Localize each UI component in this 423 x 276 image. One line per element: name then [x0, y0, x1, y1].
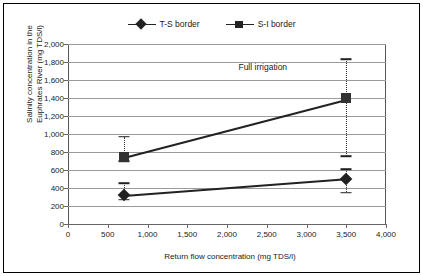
y-tick-mark	[64, 152, 68, 153]
y-tick-label: 800	[51, 148, 64, 157]
legend-entry-s-i-border[interactable]: S-I border	[226, 19, 296, 29]
error-bar-cap-s-i-border-upper	[341, 59, 352, 61]
error-bar-cap-t-s-border-lower	[341, 192, 352, 194]
x-tick-mark	[68, 224, 69, 228]
x-tick-label: 0	[66, 230, 70, 239]
error-bar-cap-s-i-border-upper	[118, 136, 129, 138]
x-tick-mark	[267, 224, 268, 228]
legend-entry-t-s-border[interactable]: T-S border	[128, 19, 200, 29]
gridline	[68, 170, 386, 171]
x-tick-label: 1,500	[177, 230, 197, 239]
square-marker-icon	[226, 19, 254, 29]
gridline	[68, 98, 386, 99]
x-tick-label: 500	[101, 230, 114, 239]
x-tick-mark	[187, 224, 188, 228]
error-bar-cap-t-s-border-upper	[341, 168, 352, 170]
y-tick-mark	[64, 134, 68, 135]
chart-legend: T-S borderS-I border	[0, 16, 423, 32]
x-axis-title: Return flow concentration (mg TDS/l)	[60, 252, 400, 261]
gridline	[68, 134, 386, 135]
x-tick-label: 2,000	[217, 230, 237, 239]
x-tick-label: 1,000	[137, 230, 157, 239]
x-tick-label: 2,500	[257, 230, 277, 239]
y-tick-mark	[64, 98, 68, 99]
y-tick-label: 600	[51, 166, 64, 175]
y-tick-mark	[64, 116, 68, 117]
y-tick-label: 2,000	[44, 40, 64, 49]
y-tick-label: 1,600	[44, 76, 64, 85]
x-tick-label: 3,500	[336, 230, 356, 239]
diamond-marker-icon	[128, 19, 156, 29]
y-axis-title: Salinity concentration in the Euphrates …	[21, 0, 49, 169]
gridline	[68, 206, 386, 207]
chart-annotation: Full irrigation	[238, 62, 287, 72]
x-tick-mark	[346, 224, 347, 228]
data-point-s-i-border[interactable]	[119, 152, 129, 162]
error-bar-stem-s-i-border	[346, 59, 347, 156]
x-tick-mark	[227, 224, 228, 228]
x-tick-mark	[386, 224, 387, 228]
x-tick-mark	[307, 224, 308, 228]
x-tick-mark	[108, 224, 109, 228]
y-tick-mark	[64, 206, 68, 207]
gridline	[68, 44, 386, 45]
legend-marker	[235, 21, 243, 28]
gridline	[68, 116, 386, 117]
error-bar-cap-t-s-border-upper	[118, 182, 129, 184]
y-tick-mark	[64, 170, 68, 171]
figure: T-S borderS-I border Salinity concentrat…	[0, 0, 423, 276]
x-tick-label: 4,000	[376, 230, 396, 239]
y-tick-label: 1,400	[44, 94, 64, 103]
legend-label: S-I border	[258, 20, 296, 29]
y-tick-label: 1,000	[44, 130, 64, 139]
legend-marker	[135, 18, 146, 29]
y-tick-label: 400	[51, 184, 64, 193]
gridline	[68, 152, 386, 153]
y-tick-label: 0	[60, 220, 64, 229]
y-tick-mark	[64, 188, 68, 189]
y-tick-label: 1,200	[44, 112, 64, 121]
series-line-s-i-border	[123, 98, 346, 158]
error-bar-cap-s-i-border-lower	[341, 155, 352, 157]
x-tick-label: 3,000	[296, 230, 316, 239]
y-tick-mark	[64, 44, 68, 45]
plot-area: 02004006008001,0001,2001,4001,6001,8002,…	[68, 44, 386, 224]
y-tick-label: 200	[51, 202, 64, 211]
y-tick-label: 1,800	[44, 58, 64, 67]
data-point-t-s-border[interactable]	[340, 172, 353, 185]
gridline	[68, 80, 386, 81]
y-tick-mark	[64, 80, 68, 81]
y-axis-title-line1: Salinity concentration in the	[25, 25, 36, 123]
legend-label: T-S border	[160, 20, 200, 29]
x-tick-mark	[148, 224, 149, 228]
data-point-s-i-border[interactable]	[341, 93, 351, 103]
y-tick-mark	[64, 62, 68, 63]
gridline	[68, 62, 386, 63]
